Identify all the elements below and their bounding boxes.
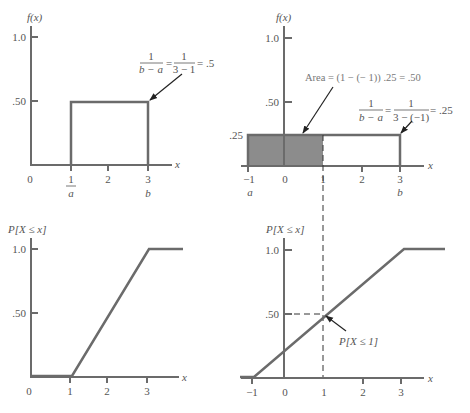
ytick-1: 1.0 <box>265 32 279 44</box>
uniform-distribution-figure: f(x) 1.0 .50 x 0 1 a 2 3 b 1 b − a = 1 3… <box>0 0 470 413</box>
ytick-1: 1.0 <box>265 244 279 256</box>
point-arrow <box>326 316 346 331</box>
panel-bottom-left-cdf: P[X ≤ x] 1.0 .50 x 0 1 2 3 <box>7 223 187 397</box>
xtick-2: 2 <box>359 173 365 185</box>
svg-text:= .5: = .5 <box>197 57 215 69</box>
annotation-arrow <box>150 74 182 100</box>
svg-text:1: 1 <box>368 97 374 109</box>
xtick-3: 3 <box>145 173 151 185</box>
ytick-025: .25 <box>229 129 243 141</box>
density-annotation: 1 b − a = 1 3 − (−1) = .25 <box>359 97 453 124</box>
panel-top-left-pdf: f(x) 1.0 .50 x 0 1 a 2 3 b 1 b − a = 1 3… <box>12 11 214 199</box>
cdf-line <box>31 249 183 376</box>
xtick-neg1: −1 <box>243 173 255 185</box>
y-axis-label: P[X ≤ x] <box>7 223 46 235</box>
shaded-area <box>248 135 323 166</box>
xtick-2: 2 <box>360 386 366 398</box>
xtick-3: 3 <box>397 173 403 185</box>
xtick-2: 2 <box>104 385 110 397</box>
svg-text:b − a: b − a <box>139 63 163 75</box>
ytick-050: .50 <box>12 95 26 107</box>
xsub-a: a <box>68 187 74 199</box>
xtick-1: 1 <box>321 386 327 398</box>
x-axis-label: x <box>427 159 433 171</box>
svg-text:3 − 1: 3 − 1 <box>173 63 196 75</box>
xtick-3: 3 <box>144 385 150 397</box>
y-axis-label: P[X ≤ x] <box>265 223 304 235</box>
x-axis-label: x <box>427 372 433 384</box>
pdf-rectangle <box>71 102 148 165</box>
xtick-2: 2 <box>105 173 111 185</box>
xtick-1: 1 <box>68 173 74 185</box>
y-axis-label: f(x) <box>276 11 292 24</box>
ytick-1: 1.0 <box>12 243 26 255</box>
xsub-a: a <box>247 186 253 198</box>
panel-top-right-pdf: f(x) 1.0 .50 .25 x −1 a 0 1 2 3 b Area =… <box>229 11 453 198</box>
xtick-neg1: −1 <box>246 386 258 398</box>
xtick-3: 3 <box>398 386 404 398</box>
svg-text:=: = <box>166 57 172 69</box>
svg-text:= .25: = .25 <box>430 104 453 116</box>
point-annotation: P[X ≤ 1] <box>338 335 378 347</box>
area-arrow <box>303 87 333 133</box>
svg-text:1: 1 <box>181 50 187 62</box>
svg-text:1: 1 <box>148 50 154 62</box>
ytick-1: 1.0 <box>12 31 26 43</box>
svg-text:=: = <box>385 104 391 116</box>
xsub-b: b <box>397 186 403 198</box>
y-axis-label: f(x) <box>27 11 43 24</box>
ytick-050: .50 <box>12 307 26 319</box>
x-axis-label: x <box>181 371 187 383</box>
xtick-0: 0 <box>282 173 288 185</box>
xtick-0: 0 <box>282 386 288 398</box>
area-annotation: Area = (1 − (− 1)) .25 = .50 <box>305 72 421 84</box>
ytick-050: .50 <box>265 308 279 320</box>
xtick-0: 0 <box>26 385 32 397</box>
x-axis-label: x <box>174 158 180 170</box>
xsub-b: b <box>145 187 151 199</box>
xtick-1: 1 <box>67 385 73 397</box>
svg-text:1: 1 <box>408 97 414 109</box>
xtick-0: 0 <box>27 173 33 185</box>
ytick-050: .50 <box>265 96 279 108</box>
svg-text:b − a: b − a <box>359 111 383 123</box>
panel-bottom-right-cdf: P[X ≤ x] 1.0 .50 x −1 0 1 2 3 P[X ≤ 1] <box>240 223 445 398</box>
density-annotation: 1 b − a = 1 3 − 1 = .5 <box>139 50 215 75</box>
